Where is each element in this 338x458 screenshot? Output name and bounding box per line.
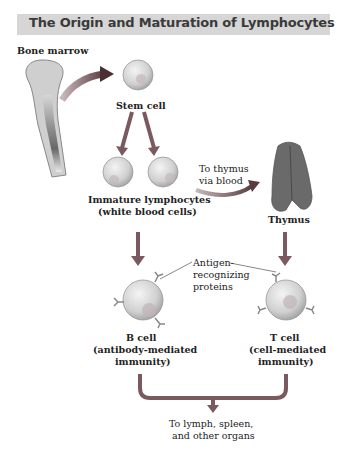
diagram-graphics xyxy=(0,0,338,458)
label-t-cell: T cell xyxy=(270,332,299,344)
merge-arrow xyxy=(140,374,286,398)
label-destination-1: To lymph, spleen, xyxy=(169,418,253,430)
label-immature-1: Immature lymphocytes xyxy=(88,194,211,206)
label-t-cell-desc-1: (cell-mediated xyxy=(249,344,326,356)
label-b-cell: B cell xyxy=(126,332,156,344)
label-destination-2: and other organs xyxy=(172,430,255,442)
label-stem-cell: Stem cell xyxy=(116,100,166,112)
label-immature-2: (white blood cells) xyxy=(98,206,197,218)
label-b-cell-desc-2: immunity) xyxy=(115,356,171,368)
label-to-thymus-2: via blood xyxy=(199,175,243,187)
label-antigen-2: recognizing xyxy=(193,269,250,281)
immature-cell-right-icon xyxy=(148,157,178,187)
label-thymus: Thymus xyxy=(268,214,310,226)
thymus-icon xyxy=(272,142,312,211)
label-t-cell-desc-2: immunity) xyxy=(258,356,314,368)
arrow-to-stem xyxy=(62,74,104,100)
label-antigen-3: proteins xyxy=(193,281,233,293)
b-cell-icon xyxy=(123,280,163,320)
bone-marrow-icon xyxy=(26,60,66,177)
label-to-thymus-1: To thymus xyxy=(199,163,249,175)
label-b-cell-desc-1: (antibody-mediated xyxy=(93,344,197,356)
label-antigen-1: Antigen- xyxy=(193,257,234,269)
label-bone-marrow: Bone marrow xyxy=(17,45,88,57)
